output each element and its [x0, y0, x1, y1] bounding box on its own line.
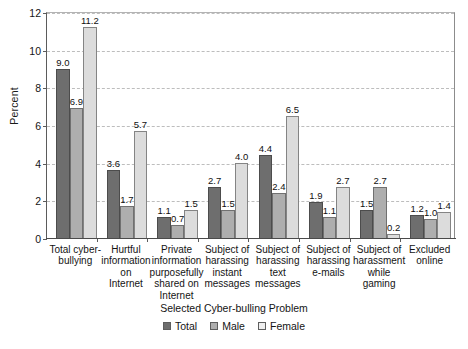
bar-wrapper: 0.7 — [171, 13, 185, 238]
bar-group: 1.52.70.2 — [360, 13, 401, 238]
bar-value-label: 6.5 — [286, 105, 299, 115]
bar-wrapper: 1.5 — [360, 13, 374, 238]
y-axis-tick-mark — [43, 51, 47, 52]
bar-wrapper: 6.9 — [70, 13, 84, 238]
bar-total[interactable] — [56, 69, 70, 239]
bar-total[interactable] — [259, 155, 273, 238]
bar-wrapper: 1.1 — [323, 13, 337, 238]
bar-female[interactable] — [134, 131, 148, 238]
bar-wrapper: 2.4 — [272, 13, 286, 238]
bar-female[interactable] — [437, 212, 451, 238]
bar-wrapper: 1.5 — [184, 13, 198, 238]
bar-value-label: 2.7 — [373, 176, 386, 186]
y-axis-tick-mark — [43, 88, 47, 89]
bar-value-label: 1.5 — [184, 199, 197, 209]
bar-value-label: 1.1 — [157, 206, 170, 216]
bar-value-label: 0.2 — [387, 223, 400, 233]
bar-total[interactable] — [208, 187, 222, 238]
y-axis-tick-mark — [43, 126, 47, 127]
bar-value-label: 4.4 — [259, 144, 272, 154]
bar-value-label: 11.2 — [81, 16, 99, 26]
bar-wrapper: 4.0 — [235, 13, 249, 238]
y-axis-tick-mark — [43, 201, 47, 202]
y-axis-tick-label: 0 — [35, 233, 41, 245]
bar-male[interactable] — [424, 219, 438, 238]
y-axis-tick-mark — [43, 239, 47, 240]
bar-value-label: 0.7 — [171, 214, 184, 224]
bar-wrapper: 1.7 — [120, 13, 134, 238]
plot-area: 024681012 9.06.911.23.61.75.71.10.71.52.… — [46, 12, 455, 238]
bar-wrapper: 9.0 — [56, 13, 70, 238]
bar-value-label: 1.0 — [424, 208, 437, 218]
bar-male[interactable] — [171, 225, 185, 238]
bar-wrapper: 0.2 — [387, 13, 401, 238]
bar-group: 3.61.75.7 — [107, 13, 148, 238]
bar-wrapper: 1.1 — [157, 13, 171, 238]
bar-female[interactable] — [83, 27, 97, 238]
legend-item-male[interactable]: Male — [210, 320, 245, 332]
bar-value-label: 1.2 — [411, 204, 424, 214]
bar-female[interactable] — [235, 163, 249, 238]
bar-total[interactable] — [157, 217, 171, 238]
y-axis-tick-label: 4 — [35, 158, 41, 170]
bar-wrapper: 6.5 — [286, 13, 300, 238]
bar-chart: Percent 024681012 9.06.911.23.61.75.71.1… — [0, 0, 468, 349]
bar-total[interactable] — [107, 170, 121, 238]
bar-female[interactable] — [184, 210, 198, 238]
bar-wrapper: 2.7 — [208, 13, 222, 238]
bar-male[interactable] — [221, 210, 235, 238]
bar-group: 1.91.12.7 — [309, 13, 350, 238]
x-axis-category-label: Excludedonline — [400, 244, 459, 267]
bar-group: 2.71.54.0 — [208, 13, 249, 238]
y-axis-tick-label: 6 — [35, 120, 41, 132]
bar-value-label: 1.4 — [438, 201, 451, 211]
bar-wrapper: 1.2 — [410, 13, 424, 238]
legend-item-total[interactable]: Total — [163, 320, 197, 332]
bar-total[interactable] — [360, 210, 374, 238]
y-axis-tick-label: 12 — [29, 7, 41, 19]
bar-value-label: 9.0 — [56, 58, 69, 68]
legend-label: Total — [175, 320, 197, 332]
bar-male[interactable] — [120, 206, 134, 238]
x-axis-line — [46, 238, 456, 239]
bar-group: 9.06.911.2 — [56, 13, 97, 238]
bar-value-label: 2.7 — [208, 176, 221, 186]
bar-male[interactable] — [272, 193, 286, 238]
legend-swatch-icon — [210, 322, 218, 330]
bar-wrapper: 3.6 — [107, 13, 121, 238]
bar-male[interactable] — [323, 217, 337, 238]
bar-wrapper: 1.0 — [424, 13, 438, 238]
bar-value-label: 1.1 — [323, 206, 336, 216]
bar-value-label: 2.4 — [272, 182, 285, 192]
bar-male[interactable] — [373, 187, 387, 238]
bar-male[interactable] — [70, 108, 84, 238]
bar-wrapper: 4.4 — [259, 13, 273, 238]
bar-value-label: 1.9 — [309, 191, 322, 201]
y-axis-tick-label: 2 — [35, 195, 41, 207]
y-axis-tick-label: 8 — [35, 82, 41, 94]
bar-value-label: 3.6 — [107, 159, 120, 169]
bar-value-label: 2.7 — [336, 176, 349, 186]
bar-female[interactable] — [336, 187, 350, 238]
bar-wrapper: 5.7 — [134, 13, 148, 238]
chart-legend: TotalMaleFemale — [0, 320, 468, 332]
bar-wrapper: 2.7 — [373, 13, 387, 238]
bar-wrapper: 11.2 — [83, 13, 97, 238]
bar-total[interactable] — [309, 202, 323, 238]
bar-total[interactable] — [410, 215, 424, 238]
bar-value-label: 4.0 — [235, 152, 248, 162]
bar-value-label: 1.7 — [120, 195, 133, 205]
bar-wrapper: 2.7 — [336, 13, 350, 238]
bar-female[interactable] — [286, 116, 300, 238]
y-axis-tick-mark — [43, 164, 47, 165]
bar-value-label: 1.5 — [360, 199, 373, 209]
y-axis-tick-mark — [43, 13, 47, 14]
legend-item-female[interactable]: Female — [258, 320, 305, 332]
bar-value-label: 1.5 — [222, 199, 235, 209]
bar-wrapper: 1.5 — [221, 13, 235, 238]
legend-label: Female — [270, 320, 305, 332]
legend-swatch-icon — [258, 322, 266, 330]
y-axis-title: Percent — [8, 71, 20, 141]
bar-value-label: 6.9 — [70, 97, 83, 107]
x-axis-title: Selected Cyber-bulling Problem — [0, 302, 468, 314]
